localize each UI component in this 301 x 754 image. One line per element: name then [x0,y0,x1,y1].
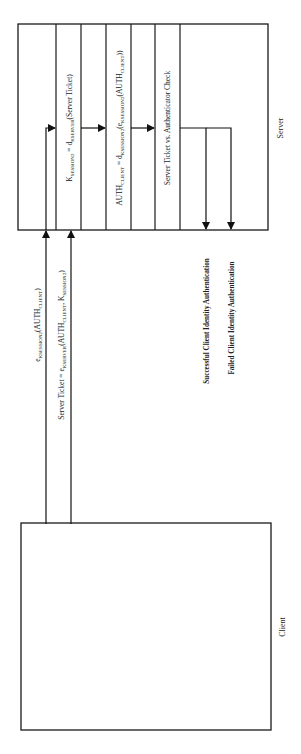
message-2-label: Server Ticket = eKSERVER(AUTHCLIENT, KSE… [57,270,67,420]
client-label: Client [278,616,287,636]
step-1-text: KSESSION2 = dKSERVER(Server Ticket) [65,74,75,182]
server-label: Server [276,117,285,138]
step-3-text: Server Ticket vs. Authenticator Check [163,71,172,186]
message-1-label: eKSESSION2(AUTHCLIENT) [33,288,43,362]
step-2-text: AUTHCLIENT = dKSESSION2(eKSESSION2(AUTHC… [115,50,125,206]
outcome-success-label: Successful Client Identity Authenticatio… [203,258,211,384]
arrow-into-step-1 [46,128,55,230]
outcome-failure-label: Failed Client Identity Authentication [228,261,236,374]
arrow-to-failure [206,128,231,229]
authentication-diagram: Server KSESSION2 = dKSERVER(Server Ticke… [0,0,301,754]
arrow-to-success [180,128,206,229]
client-box [21,523,271,730]
